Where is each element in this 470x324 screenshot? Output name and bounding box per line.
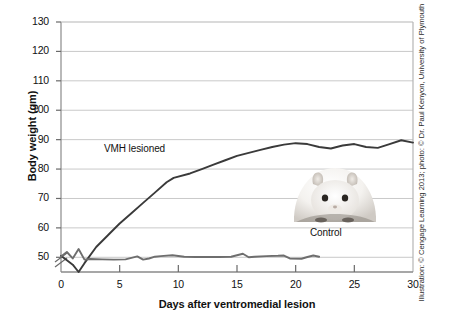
y-tick-marks-group [56, 22, 61, 257]
y-tick-label: 80 [15, 162, 49, 174]
x-tick-label: 0 [46, 278, 76, 290]
series-line-control [61, 249, 319, 260]
y-tick-label: 100 [15, 103, 49, 115]
copyright-credit: Illustration: © Cengage Learning 2013; p… [417, 52, 426, 302]
x-tick-label: 15 [222, 278, 252, 290]
x-tick-marks-group [120, 265, 355, 272]
series-label-control: Control [310, 227, 342, 238]
y-tick-label: 70 [15, 191, 49, 203]
x-tick-label: 25 [339, 278, 369, 290]
y-tick-label: 60 [15, 221, 49, 233]
y-tick-label: 90 [15, 133, 49, 145]
gridlines-group [61, 51, 413, 257]
x-tick-label: 20 [281, 278, 311, 290]
plot-canvas [0, 0, 470, 324]
series-label-vmh-lesioned: VMH lesioned [104, 143, 165, 154]
x-axis-title: Days after ventromedial lesion [61, 298, 413, 310]
y-tick-label: 110 [15, 74, 49, 86]
x-tick-label: 10 [163, 278, 193, 290]
y-tick-label: 50 [15, 250, 49, 262]
y-tick-label: 120 [15, 44, 49, 56]
y-tick-label: 130 [15, 15, 49, 27]
figure-body-weight-after-vmh-lesion: Body weight (gm) 5060708090100110120130 … [0, 0, 470, 324]
obese-hamster-photo [288, 160, 382, 226]
x-tick-label: 5 [105, 278, 135, 290]
